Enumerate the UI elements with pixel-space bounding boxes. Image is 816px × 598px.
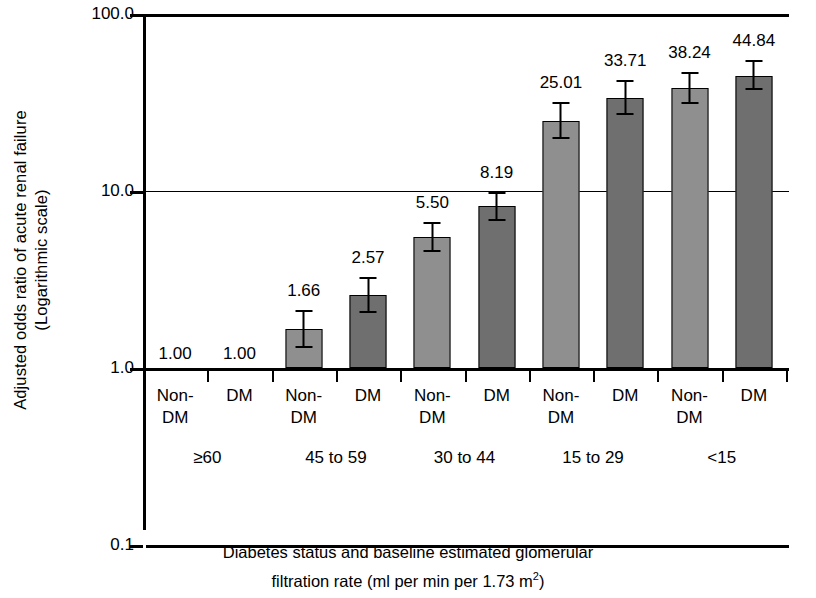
error-bar-cap-bottom [617, 113, 634, 115]
category-label-line1: Non- [400, 385, 464, 407]
category-label-0: Non-DM [143, 385, 207, 428]
error-bar-stem [496, 192, 498, 221]
error-bar-stem [303, 310, 305, 348]
error-bar-stem [624, 80, 626, 115]
category-label-8: Non-DM [657, 385, 721, 428]
error-bar-cap-top [360, 277, 377, 279]
bar-slot: 5.50 [400, 14, 464, 368]
error-bar-cap-bottom [488, 219, 505, 221]
bar-slot: 33.71 [593, 14, 657, 368]
bar-slot: 1.00 [143, 14, 207, 368]
category-label-7: DM [593, 385, 657, 407]
error-bar-cap-top [681, 72, 698, 74]
bar-value-label: 1.00 [159, 344, 192, 364]
category-label-3: DM [336, 385, 400, 407]
error-bar [295, 310, 312, 348]
axis-baseline [146, 368, 789, 371]
bar-slot: 44.84 [722, 14, 786, 368]
x-axis-title: Diabetes status and baseline estimated g… [0, 540, 816, 593]
group-label-2: 30 to 44 [400, 448, 529, 468]
bar-value-label: 2.57 [351, 248, 384, 268]
error-bar-cap-top [295, 310, 312, 312]
bar-slot: 1.66 [272, 14, 336, 368]
category-label-line1: Non- [657, 385, 721, 407]
error-bar-stem [753, 60, 755, 90]
error-bar-cap-bottom [424, 250, 441, 252]
bar-dm-33.71[interactable] [607, 98, 644, 368]
group-label-0: ≥60 [143, 448, 272, 468]
error-bar-cap-top [424, 222, 441, 224]
y-tick-label-100-0: 100.0 [42, 4, 134, 24]
error-bar [681, 72, 698, 103]
category-label-5: DM [465, 385, 529, 407]
error-bar [360, 277, 377, 312]
category-label-line1: DM [722, 385, 786, 407]
bar-non-dm-38.24[interactable] [671, 88, 708, 368]
bar-non-dm-25.01[interactable] [542, 121, 579, 368]
error-bar-stem [689, 72, 691, 103]
category-label-line1: Non- [272, 385, 336, 407]
x-tick-mark [336, 368, 338, 382]
bar-value-label: 25.01 [540, 73, 583, 93]
category-label-line2: DM [400, 407, 464, 429]
error-bar-stem [367, 277, 369, 312]
bar-value-label: 44.84 [733, 31, 776, 51]
y-tick-mark [130, 14, 143, 17]
error-bar-cap-bottom [745, 88, 762, 90]
error-bar-cap-bottom [295, 346, 312, 348]
bar-value-label: 8.19 [480, 163, 513, 183]
category-label-line2: DM [529, 407, 593, 429]
y-axis-title-line1: Adjusted odds ratio of acute renal failu… [11, 110, 29, 410]
error-bar-cap-bottom [552, 137, 569, 139]
category-label-line1: DM [207, 385, 271, 407]
bar-value-label: 33.71 [604, 51, 647, 71]
y-tick-mark [130, 191, 143, 194]
y-tick-label-10-0: 10.0 [42, 181, 134, 201]
category-label-6: Non-DM [529, 385, 593, 428]
error-bar [745, 60, 762, 90]
x-tick-mark [786, 368, 788, 382]
y-tick-mark [130, 368, 143, 371]
bar-slot: 38.24 [657, 14, 721, 368]
category-label-1: DM [207, 385, 271, 407]
x-tick-mark [657, 368, 659, 382]
category-label-line2: DM [143, 407, 207, 429]
y-tick-label-1-0: 1.0 [42, 358, 134, 378]
x-axis-title-line2: filtration rate (ml per min per 1.73 m [272, 572, 533, 590]
error-bar-cap-bottom [360, 311, 377, 313]
y-axis-title: Adjusted odds ratio of acute renal failu… [0, 0, 62, 520]
bar-dm-44.84[interactable] [735, 76, 772, 368]
x-tick-mark [143, 368, 145, 382]
category-label-line1: Non- [143, 385, 207, 407]
category-label-line1: DM [593, 385, 657, 407]
x-tick-mark [400, 368, 402, 382]
category-label-line1: Non- [529, 385, 593, 407]
x-axis-title-line1: Diabetes status and baseline estimated g… [223, 543, 594, 561]
category-label-4: Non-DM [400, 385, 464, 428]
category-label-2: Non-DM [272, 385, 336, 428]
bar-non-dm-5.50[interactable] [414, 237, 451, 368]
bar-dm-8.19[interactable] [478, 206, 515, 368]
error-bar [488, 192, 505, 221]
category-label-line1: DM [465, 385, 529, 407]
bar-value-label: 1.66 [287, 281, 320, 301]
error-bar [552, 102, 569, 140]
error-bar-cap-top [617, 80, 634, 82]
group-label-4: <15 [657, 448, 786, 468]
error-bar-cap-top [488, 192, 505, 194]
bar-value-label: 38.24 [668, 43, 711, 63]
group-label-3: 15 to 29 [529, 448, 658, 468]
category-label-line1: DM [336, 385, 400, 407]
x-tick-mark [593, 368, 595, 382]
bar-value-label: 1.00 [223, 344, 256, 364]
x-tick-mark [722, 368, 724, 382]
group-label-1: 45 to 59 [272, 448, 401, 468]
category-label-9: DM [722, 385, 786, 407]
error-bar [617, 80, 634, 115]
chart-figure: Adjusted odds ratio of acute renal failu… [0, 0, 816, 598]
bar-value-label: 5.50 [416, 193, 449, 213]
bar-slot: 8.19 [465, 14, 529, 368]
error-bar-stem [560, 102, 562, 140]
error-bar-cap-top [552, 102, 569, 104]
bar-slot: 2.57 [336, 14, 400, 368]
